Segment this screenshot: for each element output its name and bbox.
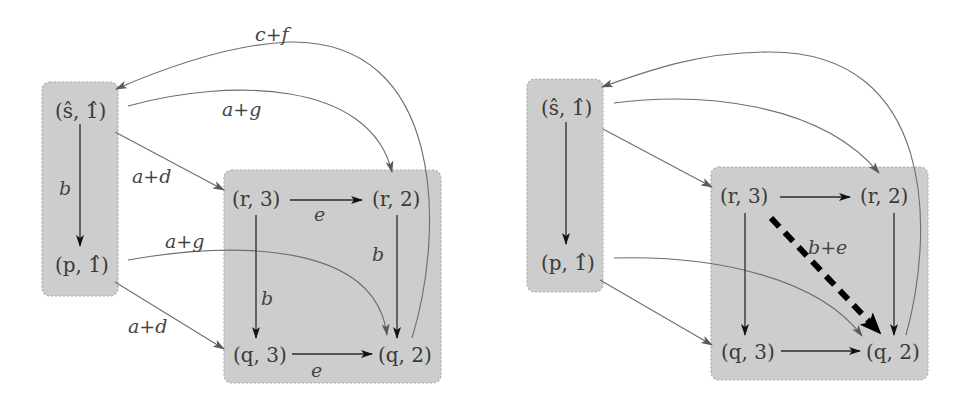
node-p1: (p, 1̂): [55, 253, 109, 277]
right-diagram: (ŝ, 1̂) (p, 1̂) (r, 3) (r, 2) (q, 3) (q,…: [527, 52, 928, 380]
node-s1: (ŝ, 1̂): [55, 99, 106, 123]
node-p1: (p, 1̂): [541, 251, 595, 275]
node-r3: (r, 3): [720, 184, 768, 208]
label-p1-q2: a+g: [165, 230, 204, 252]
edge-s1-r2: [614, 99, 879, 173]
label-s1-p1: b: [59, 177, 71, 199]
node-r3: (r, 3): [232, 187, 280, 211]
label-q3-q2: e: [311, 359, 322, 381]
edge-s1-r3: [603, 129, 712, 187]
label-s1-r2: a+g: [222, 98, 261, 120]
node-q2: (q, 2): [378, 343, 432, 367]
label-s1-r3: a+d: [132, 165, 171, 187]
node-r2: (r, 2): [372, 187, 420, 211]
label-r3-q3: b: [261, 287, 273, 309]
label-r3-q2: b+e: [808, 236, 847, 258]
label-r2-q2: b: [372, 243, 384, 265]
node-q3: (q, 3): [721, 340, 775, 364]
label-q2-s1: c+f: [255, 23, 292, 45]
left-diagram: (ŝ, 1̂) (p, 1̂) (r, 3) (r, 2) (q, 3) (q,…: [42, 23, 441, 383]
node-q3: (q, 3): [233, 343, 287, 367]
node-s1: (ŝ, 1̂): [541, 96, 592, 120]
label-r3-r2: e: [314, 203, 325, 225]
label-p1-q3: a+d: [128, 315, 167, 337]
edge-p1-q3: [600, 280, 712, 345]
node-q2: (q, 2): [866, 340, 920, 364]
node-r2: (r, 2): [860, 184, 908, 208]
diagram-canvas: (ŝ, 1̂) (p, 1̂) (r, 3) (r, 2) (q, 3) (q,…: [0, 0, 966, 407]
